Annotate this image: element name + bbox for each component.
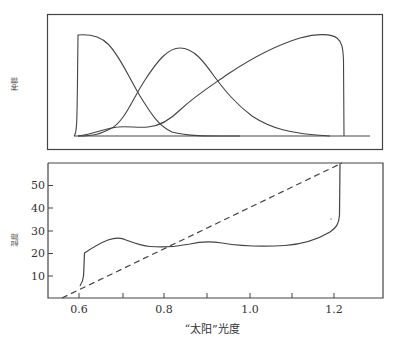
daisyworld-figure: 种群 温度 50 40 30 20 10 [0,0,394,339]
temperature-panel: 温度 50 40 30 20 10 0.6 0.8 1.0 1.2 “太阳”光度 [10,163,383,336]
population-axis-label: 种群 [10,77,19,91]
dashed-temperature-line [62,163,342,298]
x-tick-1.0: 1.0 [241,303,259,316]
x-tick-1.2: 1.2 [325,303,343,316]
x-axis-label: “太阳”光度 [184,322,239,336]
y-tick-20: 20 [31,247,45,260]
y-tick-10: 10 [31,270,45,283]
y-tick-40: 40 [31,202,45,215]
temperature-axis-label: 温度 [10,233,19,247]
population-curve-middle [78,48,330,136]
x-tick-0.8: 0.8 [155,303,173,316]
x-axis [79,293,334,298]
temperature-curve [80,163,340,286]
population-curve-right [78,35,344,136]
population-panel: 种群 [10,15,383,150]
population-curve-left [74,35,240,136]
y-tick-50: 50 [31,179,45,192]
population-plot-frame [48,15,383,150]
y-axis [48,186,53,277]
print-speck [330,218,332,220]
y-tick-30: 30 [31,225,45,238]
x-tick-0.6: 0.6 [70,303,88,316]
